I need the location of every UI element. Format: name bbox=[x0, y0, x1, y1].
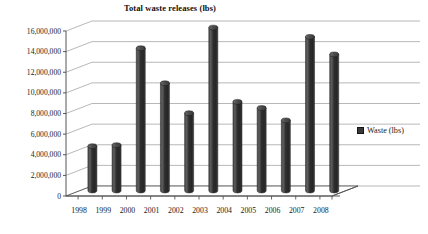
bar-cap bbox=[185, 111, 194, 116]
bar-body bbox=[281, 120, 290, 193]
bar-2002 bbox=[185, 111, 194, 193]
chart-plot-area: 02,000,0004,000,0006,000,0008,000,00010,… bbox=[0, 0, 428, 234]
y-axis: 02,000,0004,000,0006,000,0008,000,00010,… bbox=[27, 27, 66, 201]
bar-1998 bbox=[88, 144, 97, 193]
x-axis-tick-label: 2002 bbox=[168, 206, 184, 215]
y-axis-tick-label: 12,000,000 bbox=[27, 68, 61, 77]
y-axis-tick-label: 10,000,000 bbox=[27, 88, 61, 97]
chart-container: Total waste releases (lbs) 02,000,0004,0… bbox=[0, 0, 428, 234]
bar-cap bbox=[306, 34, 315, 39]
bar-cap bbox=[233, 99, 242, 104]
bar-body bbox=[233, 102, 242, 193]
x-axis-tick-label: 2008 bbox=[313, 206, 329, 215]
bar-2007 bbox=[306, 34, 315, 192]
x-axis-tick-label: 2007 bbox=[289, 206, 305, 215]
x-axis-tick-label: 2005 bbox=[241, 206, 257, 215]
x-axis-tick-label: 2000 bbox=[120, 206, 136, 215]
bar-2001 bbox=[160, 81, 169, 193]
y-axis-tick-label: 0 bbox=[57, 192, 61, 201]
gridline bbox=[66, 83, 420, 93]
gridline bbox=[66, 21, 420, 31]
bar-2003 bbox=[209, 25, 218, 193]
x-axis-tick-label: 2001 bbox=[144, 206, 160, 215]
bar-body bbox=[112, 145, 121, 193]
bar-2004 bbox=[233, 99, 242, 192]
bar-cap bbox=[330, 52, 339, 57]
bar-cap bbox=[160, 81, 169, 86]
x-axis-tick-label: 1999 bbox=[95, 206, 111, 215]
y-axis-tick-label: 4,000,000 bbox=[31, 150, 62, 159]
chart-legend: Waste (lbs) bbox=[357, 126, 404, 135]
gridline bbox=[66, 42, 420, 52]
bar-cap bbox=[209, 25, 218, 30]
bar-1999 bbox=[112, 143, 121, 193]
bar-cap bbox=[281, 118, 290, 123]
y-axis-tick-label: 16,000,000 bbox=[27, 27, 61, 36]
bar-cap bbox=[112, 143, 121, 148]
gridline bbox=[66, 62, 420, 72]
bar-body bbox=[306, 37, 315, 193]
bar-series bbox=[88, 25, 339, 193]
bar-body bbox=[209, 28, 218, 193]
bar-body bbox=[160, 83, 169, 193]
x-axis-tick-label: 1998 bbox=[71, 206, 87, 215]
x-axis-tick-label: 2003 bbox=[192, 206, 208, 215]
bar-body bbox=[185, 113, 194, 193]
bar-body bbox=[88, 146, 97, 193]
bar-body bbox=[136, 48, 145, 193]
bar-2008 bbox=[330, 52, 339, 193]
x-axis-tick-label: 2006 bbox=[265, 206, 281, 215]
y-axis-tick-label: 14,000,000 bbox=[27, 47, 61, 56]
bar-2000 bbox=[136, 46, 145, 193]
legend-swatch-waste bbox=[357, 127, 364, 134]
bar-body bbox=[330, 54, 339, 193]
gridline bbox=[66, 104, 420, 114]
bar-body bbox=[257, 108, 266, 193]
legend-label-waste: Waste (lbs) bbox=[367, 126, 404, 135]
y-axis-tick-label: 8,000,000 bbox=[31, 109, 62, 118]
y-axis-tick-label: 2,000,000 bbox=[31, 171, 62, 180]
x-axis-tick-label: 2004 bbox=[216, 206, 232, 215]
bar-2006 bbox=[281, 118, 290, 193]
bar-2005 bbox=[257, 106, 266, 193]
bar-cap bbox=[257, 106, 266, 111]
bar-cap bbox=[88, 144, 97, 149]
bar-cap bbox=[136, 46, 145, 51]
y-axis-tick-label: 6,000,000 bbox=[31, 130, 62, 139]
